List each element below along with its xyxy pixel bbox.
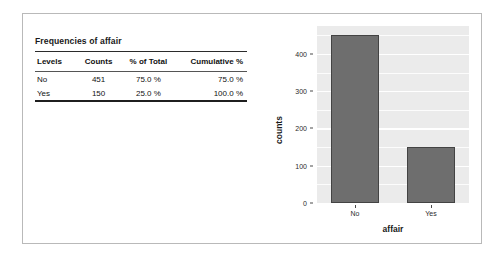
frequency-table-title: Frequencies of affair [35, 36, 247, 51]
x-tick-label: No [351, 210, 360, 217]
y-tick-label: 200 [295, 125, 307, 132]
y-tick-label-group: 0100200300400 [259, 26, 307, 203]
y-tick-mark [310, 165, 313, 166]
cell-counts: 150 [77, 86, 119, 100]
table-head: Levels Counts % of Total Cumulative % [35, 52, 247, 71]
y-tick-label: 100 [295, 162, 307, 169]
bar-no [331, 35, 378, 203]
table-row: No 451 75.0 % 75.0 % [35, 72, 247, 86]
table-header-row: Levels Counts % of Total Cumulative % [35, 52, 247, 71]
frequency-table: Levels Counts % of Total Cumulative % [35, 52, 247, 71]
plot-panel [317, 26, 469, 203]
screenshot-root: Frequencies of affair Levels Counts % of… [0, 0, 502, 261]
y-tick-label: 300 [295, 88, 307, 95]
y-tick-mark [310, 53, 313, 54]
cell-counts: 451 [77, 72, 119, 86]
table-rule-bottom [35, 100, 247, 102]
cell-level: No [35, 72, 77, 86]
frequency-table-block: Frequencies of affair Levels Counts % of… [35, 36, 247, 102]
y-tick-mark [310, 128, 313, 129]
y-tick-mark [310, 91, 313, 92]
cell-cumulative: 75.0 % [177, 72, 247, 86]
cell-pct-of-total: 75.0 % [120, 72, 177, 86]
frequency-table-body: No 451 75.0 % 75.0 % Yes 150 25.0 % 100.… [35, 72, 247, 100]
y-tick-label: 0 [303, 200, 307, 207]
table-body: No 451 75.0 % 75.0 % Yes 150 25.0 % 100.… [35, 72, 247, 100]
results-panel: Frequencies of affair Levels Counts % of… [22, 13, 482, 244]
column-header-cumulative-pct: Cumulative % [177, 52, 247, 71]
column-header-levels: Levels [35, 52, 77, 71]
column-header-counts: Counts [77, 52, 119, 71]
column-header-pct-of-total: % of Total [120, 52, 177, 71]
cell-level: Yes [35, 86, 77, 100]
x-axis-title: affair [317, 224, 469, 234]
y-axis-ticks: 0100200300400 [259, 26, 313, 203]
y-tick-mark [310, 203, 313, 204]
y-tick-label: 400 [295, 50, 307, 57]
x-tick-mark [431, 205, 432, 208]
cell-pct-of-total: 25.0 % [120, 86, 177, 100]
table-row: Yes 150 25.0 % 100.0 % [35, 86, 247, 100]
bar-yes [407, 147, 454, 203]
x-tick-label: Yes [425, 210, 436, 217]
cell-cumulative: 100.0 % [177, 86, 247, 100]
x-tick-mark [355, 205, 356, 208]
bar-chart: counts 0100200300400 NoYes affair [259, 16, 481, 244]
